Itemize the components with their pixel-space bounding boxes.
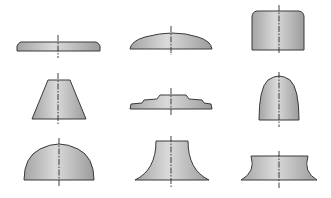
thin-flat-plate-shape: [17, 35, 100, 58]
truncated-cone-shape: [32, 73, 86, 124]
paraboloid-shape: [259, 72, 299, 127]
concave-flared-cone-shape: [135, 136, 209, 188]
concave-spool-shape: [241, 151, 317, 188]
shallow-dome-shape: [130, 26, 212, 55]
hemisphere-shape: [24, 138, 94, 186]
rounded-top-cylinder-shape: [252, 5, 304, 54]
stepped-plate-shape: [130, 88, 212, 115]
shapes-diagram: [0, 0, 331, 198]
